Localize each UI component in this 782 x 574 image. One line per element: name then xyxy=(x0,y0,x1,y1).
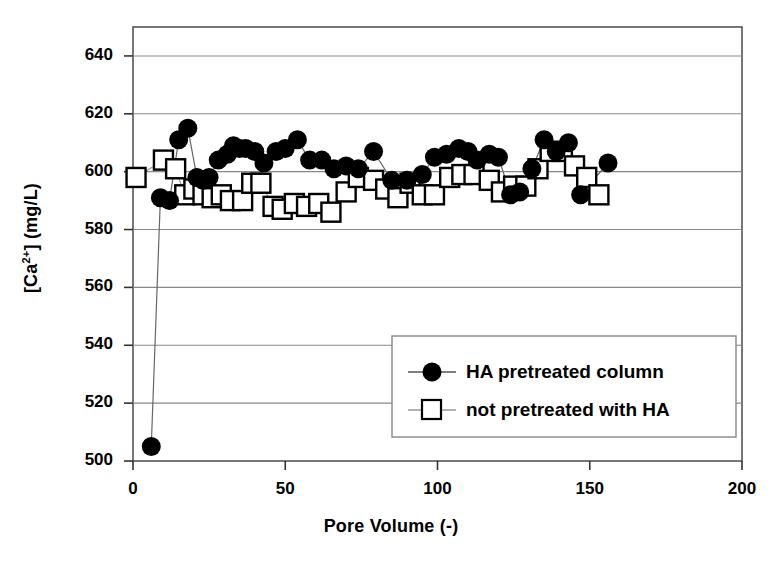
y-tick-label-540: 540 xyxy=(49,334,113,354)
y-axis-tick-marks xyxy=(124,56,133,461)
data-point-filled-circle xyxy=(599,153,618,172)
data-point-filled-circle xyxy=(489,148,508,167)
data-point-filled-circle xyxy=(200,168,219,187)
data-point-open-square xyxy=(166,159,185,178)
y-tick-label-580: 580 xyxy=(49,219,113,239)
y-axis-title-suffix: ] (mg/L) xyxy=(21,183,41,251)
y-axis-title-superscript: 2+ xyxy=(20,251,32,264)
data-point-open-square xyxy=(233,191,252,210)
x-tick-label-150: 150 xyxy=(560,479,620,499)
legend-label-not-pretreated-with-ha: not pretreated with HA xyxy=(466,399,670,421)
y-tick-label-620: 620 xyxy=(49,103,113,123)
x-tick-label-0: 0 xyxy=(103,479,163,499)
y-axis-title: [Ca2+] (mg/L) xyxy=(21,183,41,293)
x-axis-title: Pore Volume (-) xyxy=(0,516,782,537)
y-tick-label-500: 500 xyxy=(49,450,113,470)
y-axis-title-prefix: [Ca xyxy=(21,263,41,293)
x-tick-label-50: 50 xyxy=(255,479,315,499)
data-point-filled-circle xyxy=(522,159,541,178)
x-axis-tick-marks xyxy=(133,461,742,470)
y-tick-label-640: 640 xyxy=(49,45,113,65)
data-point-filled-circle xyxy=(571,185,590,204)
legend-marker-filled-circle xyxy=(423,363,442,382)
x-tick-label-100: 100 xyxy=(408,479,468,499)
legend-box xyxy=(392,336,736,437)
data-point-filled-circle xyxy=(142,437,161,456)
y-axis-title-wrapper: [Ca2+] (mg/L) xyxy=(20,108,42,368)
x-tick-label-200: 200 xyxy=(712,479,772,499)
legend-label-ha-pretreated-column: HA pretreated column xyxy=(466,361,664,383)
data-point-open-square xyxy=(321,203,340,222)
data-point-filled-circle xyxy=(364,142,383,161)
data-point-open-square xyxy=(127,168,146,187)
data-point-filled-circle xyxy=(559,133,578,152)
data-point-open-square xyxy=(577,168,596,187)
data-point-filled-circle xyxy=(510,182,529,201)
y-tick-label-520: 520 xyxy=(49,392,113,412)
data-point-filled-circle xyxy=(160,191,179,210)
data-point-open-square xyxy=(589,185,608,204)
data-point-filled-circle xyxy=(349,159,368,178)
legend-marker-open-square xyxy=(422,400,441,419)
y-tick-label-600: 600 xyxy=(49,161,113,181)
data-point-open-square xyxy=(251,174,270,193)
chart-figure: HA pretreated column not pretreated with… xyxy=(0,0,782,574)
data-point-filled-circle xyxy=(288,130,307,149)
chart-legend xyxy=(392,336,736,437)
data-point-open-square xyxy=(425,185,444,204)
data-point-filled-circle xyxy=(178,119,197,138)
data-point-filled-circle xyxy=(413,165,432,184)
y-tick-label-560: 560 xyxy=(49,276,113,296)
